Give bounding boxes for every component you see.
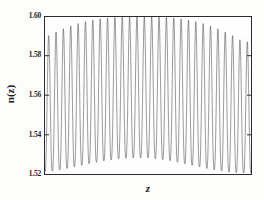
y-tick-label: 1.60 (8, 12, 41, 20)
y-tick-label: 1.58 (8, 51, 41, 59)
series-line-n-of-z (45, 17, 251, 173)
y-tick-label: 1.54 (8, 131, 41, 139)
oscillation-curve (45, 17, 251, 174)
y-axis-tick-labels: 1.60 1.58 1.56 1.54 1.52 (8, 0, 41, 200)
figure: n(z) 1.60 1.58 1.56 1.54 1.52 z (0, 0, 264, 200)
x-axis-title: z (44, 182, 252, 194)
y-tick-label: 1.56 (8, 91, 41, 99)
y-tick-label: 1.52 (8, 170, 41, 178)
plot-area (44, 16, 252, 175)
